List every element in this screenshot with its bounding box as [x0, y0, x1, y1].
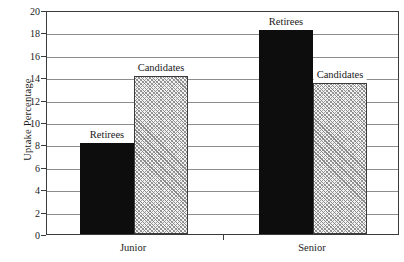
bar-junior-retirees [80, 143, 134, 234]
gridline [47, 57, 398, 58]
bar-senior-candidates [313, 83, 367, 234]
bar-chart: Uptake Percentage 02468101214161820 Reti… [0, 0, 404, 262]
y-tick-label: 16 [10, 50, 40, 61]
annotation-senior-candidates: Candidates [314, 69, 367, 81]
x-axis-label-senior: Senior [267, 242, 357, 253]
y-tick-mark [41, 235, 46, 236]
y-tick-label: 18 [10, 28, 40, 39]
annotation-senior-retirees: Retirees [266, 16, 306, 28]
x-axis-category-tick [223, 235, 224, 240]
y-tick-label: 20 [10, 6, 40, 17]
y-tick-label: 14 [10, 73, 40, 84]
y-tick-label: 10 [10, 118, 40, 129]
plot-area: RetireesCandidatesRetireesCandidates [46, 11, 399, 235]
y-tick-label: 8 [10, 140, 40, 151]
bar-junior-candidates [134, 76, 188, 234]
y-tick-label: 2 [10, 207, 40, 218]
y-tick-label: 4 [10, 185, 40, 196]
y-tick-label: 6 [10, 162, 40, 173]
x-axis-label-junior: Junior [88, 242, 178, 253]
bar-senior-retirees [259, 30, 313, 234]
y-tick-label: 0 [10, 230, 40, 241]
y-tick-label: 12 [10, 95, 40, 106]
annotation-junior-candidates: Candidates [135, 62, 188, 74]
annotation-junior-retirees: Retirees [87, 129, 127, 141]
gridline [47, 34, 398, 35]
